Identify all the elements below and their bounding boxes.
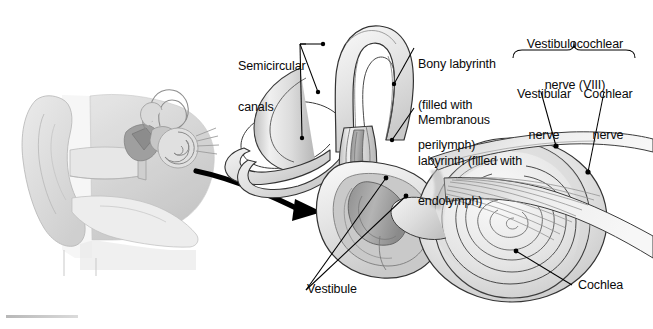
label-membranous-labyrinth-line2: labyrinth (filled with xyxy=(418,155,522,169)
figure-root: Semicircular canals Bony labyrinth (fill… xyxy=(0,0,653,329)
label-semicircular-canals-line1: Semicircular xyxy=(238,60,306,74)
label-vestibule: Vestibule xyxy=(307,283,357,297)
label-cochlear-nerve-line1: Cochlear xyxy=(579,88,637,102)
label-membranous-labyrinth: Membranous labyrinth (filled with endoly… xyxy=(418,87,522,236)
label-bony-labyrinth-line1: Bony labyrinth xyxy=(418,58,496,72)
caption-rule xyxy=(6,315,78,318)
label-membranous-labyrinth-line3: endolymph) xyxy=(418,195,522,209)
label-vestibular-nerve: Vestibular nerve xyxy=(513,61,575,169)
label-cochlear-nerve-line2: nerve xyxy=(579,129,637,143)
label-cochlea: Cochlea xyxy=(578,279,623,293)
label-semicircular-canals: Semicircular canals xyxy=(238,33,306,141)
label-vestibular-nerve-line2: nerve xyxy=(513,129,575,143)
label-semicircular-canals-line2: canals xyxy=(238,101,306,115)
label-cochlear-nerve: Cochlear nerve xyxy=(579,61,637,169)
label-vestibular-nerve-line1: Vestibular xyxy=(513,88,575,102)
label-vestibulocochlear-nerve-line1: Vestibulocochlear xyxy=(510,38,640,52)
label-membranous-labyrinth-line1: Membranous xyxy=(418,114,522,128)
